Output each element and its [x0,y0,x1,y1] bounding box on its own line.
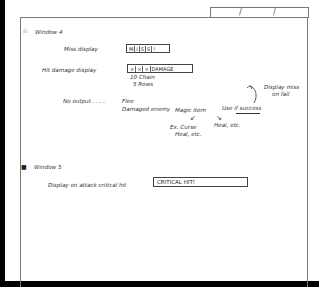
miss-display-label: Miss display [64,46,98,53]
critical-hit-label: Display on attack critical hit [48,182,126,189]
hit-damage-box: ×××DAMAGE [127,64,193,73]
display-miss-note-1: Display miss [264,84,299,91]
tab-slash: / [239,9,242,17]
magic-item-examples-2: Heal, etc. [175,131,202,138]
heal-etc-label: Heal, etc. [214,122,241,129]
hit-note-chain: 10 Chain [130,74,155,81]
hit-note-rows: 5 Rows [133,81,153,88]
display-miss-note-2: on fail [272,91,289,98]
lock-icon: ■ [21,163,27,170]
damaged-enemy-label: Damaged enemy [122,106,170,113]
arrow-down-right-icon: ↘ [216,115,222,122]
magic-item-examples-1: Ex. Curse [170,124,197,131]
tab-slash: / [273,9,276,17]
no-output-label: No output . . . . [63,98,105,105]
hit-damage-value: DAMAGE [151,66,175,72]
window4-title: Window 4 [35,29,63,36]
use-if-success-label: Use if success [222,105,261,112]
sketch-frame [20,17,308,287]
miss-display-box: MISS! [126,44,170,53]
arrow-down-left-icon: ↙ [190,115,196,122]
hit-cell: × [136,66,143,72]
window5-title: Window 5 [34,164,62,171]
star-icon: ☆ [22,28,28,35]
success-underline [236,113,260,114]
hit-cell: × [129,66,136,72]
magic-item-label: Magic item [175,107,206,114]
flee-label: Flee [122,98,134,105]
miss-cell: ! [152,46,156,52]
critical-hit-box: CRITICAL HIT! [153,177,248,187]
miss-cell: M [128,46,135,52]
hit-cell: × [143,66,150,72]
hit-damage-label: Hit damage display [42,67,96,74]
curved-arrow-icon [246,84,260,104]
critical-hit-value: CRITICAL HIT! [157,179,195,185]
